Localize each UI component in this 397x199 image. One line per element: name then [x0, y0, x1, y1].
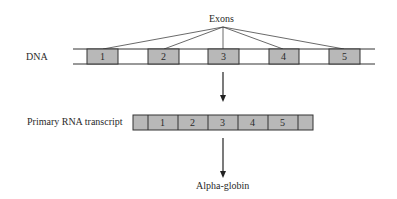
gene-expression-diagram	[0, 0, 397, 199]
dna-exon-number: 4	[281, 51, 286, 62]
rna-label: Primary RNA transcript	[27, 116, 123, 127]
exons-label: Exons	[209, 13, 234, 24]
transcription-arrow	[220, 72, 226, 102]
dna-exon-number: 1	[100, 51, 105, 62]
rna-exon-number: 4	[250, 117, 255, 128]
product-label: Alpha-globin	[196, 180, 249, 191]
dna-label: DNA	[26, 51, 48, 62]
dna-exon-number: 5	[342, 51, 347, 62]
rna-exon-number: 5	[280, 117, 285, 128]
rna-exon-number: 1	[160, 117, 165, 128]
exon-pointer-lines	[103, 27, 344, 49]
rna-exon-number: 2	[190, 117, 195, 128]
translation-arrow	[220, 138, 226, 178]
dna-exon-number: 2	[161, 51, 166, 62]
dna-exon-number: 3	[221, 51, 226, 62]
rna-exon-number: 3	[220, 117, 225, 128]
